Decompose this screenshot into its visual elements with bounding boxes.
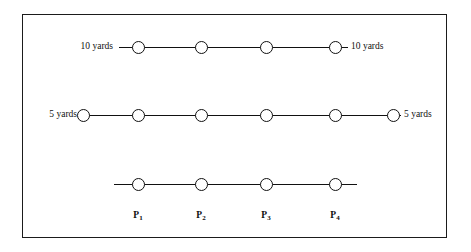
point-label-subscript: 4 (336, 214, 340, 222)
node-circle[interactable] (260, 109, 273, 122)
node-circle[interactable] (329, 41, 342, 54)
node-circle[interactable] (195, 109, 208, 122)
node-circle[interactable] (195, 41, 208, 54)
node-circle[interactable] (260, 178, 273, 191)
node-circle[interactable] (329, 109, 342, 122)
node-circle[interactable] (387, 109, 400, 122)
point-label-subscript: 1 (139, 214, 143, 222)
node-circle[interactable] (132, 41, 145, 54)
row-line-1 (119, 47, 348, 48)
row-line-3 (114, 184, 357, 185)
point-label-p2: P2 (181, 211, 221, 221)
point-label-subscript: 3 (267, 214, 271, 222)
row-line-2 (83, 115, 401, 116)
point-label-p4: P4 (315, 211, 355, 221)
row-label-left-2: 5 yards (49, 110, 77, 120)
diagram-border-frame: 10 yards10 yards5 yards5 yardsP1P2P3P4 (22, 14, 447, 238)
diagram-canvas: 10 yards10 yards5 yards5 yardsP1P2P3P4 (0, 0, 471, 252)
row-label-right-2: 5 yards (404, 110, 432, 120)
node-circle[interactable] (260, 41, 273, 54)
row-label-right-1: 10 yards (351, 42, 383, 52)
node-circle[interactable] (132, 178, 145, 191)
row-label-left-1: 10 yards (81, 42, 113, 52)
node-circle[interactable] (77, 109, 90, 122)
node-circle[interactable] (329, 178, 342, 191)
node-circle[interactable] (132, 109, 145, 122)
point-label-subscript: 2 (202, 214, 206, 222)
point-label-p1: P1 (118, 211, 158, 221)
node-circle[interactable] (195, 178, 208, 191)
point-label-p3: P3 (246, 211, 286, 221)
